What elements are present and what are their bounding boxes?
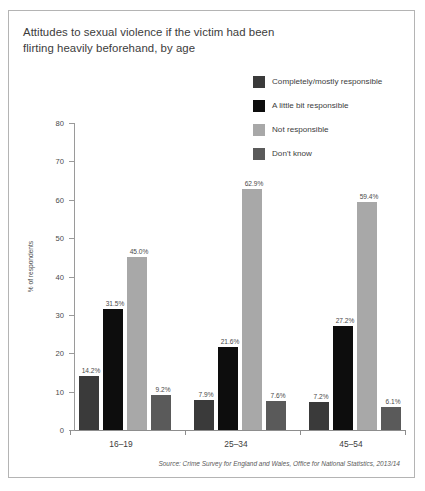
bar-value-label: 62.9%	[239, 180, 269, 187]
bar[interactable]	[309, 402, 329, 430]
x-axis-tick	[70, 430, 71, 435]
bar-column[interactable]: 45.0%	[127, 123, 147, 430]
bar-column[interactable]: 27.2%	[333, 123, 353, 430]
y-axis-tick	[69, 238, 75, 239]
bar[interactable]	[103, 309, 123, 430]
bar[interactable]	[381, 407, 401, 430]
bar-value-label: 7.9%	[191, 391, 221, 398]
bar-value-label: 9.2%	[148, 386, 178, 393]
chart-figure-frame: Attitudes to sexual violence if the vict…	[8, 10, 415, 478]
plot-area: % of respondents 01020304050607080 14.2%…	[9, 11, 416, 479]
y-axis-tick	[69, 161, 75, 162]
y-axis-tick-label: 40	[24, 273, 64, 282]
y-axis-tick	[69, 200, 75, 201]
bar[interactable]	[79, 376, 99, 430]
source-note: Source: Crime Survey for England and Wal…	[158, 460, 400, 467]
y-axis-tick-label: 70	[24, 157, 64, 166]
y-axis-tick	[69, 392, 75, 393]
bar[interactable]	[194, 400, 214, 430]
y-axis-tick	[69, 315, 75, 316]
bar-value-label: 27.2%	[330, 317, 360, 324]
bar-value-label: 45.0%	[124, 248, 154, 255]
bar-value-label: 7.6%	[263, 392, 293, 399]
y-axis-tick	[69, 353, 75, 354]
y-axis-tick-label: 60	[24, 196, 64, 205]
y-axis-tick-label: 20	[24, 349, 64, 358]
bar-column[interactable]: 9.2%	[151, 123, 171, 430]
bar[interactable]	[151, 395, 171, 430]
x-axis-tick	[300, 430, 301, 435]
bar-column[interactable]: 6.1%	[381, 123, 401, 430]
bar-value-label: 7.2%	[306, 393, 336, 400]
bar-group-bars: 7.2%27.2%59.4%6.1%	[309, 123, 405, 430]
bar-column[interactable]: 59.4%	[357, 123, 377, 430]
bar[interactable]	[266, 401, 286, 430]
y-axis-tick-label: 80	[24, 119, 64, 128]
bar-column[interactable]: 31.5%	[103, 123, 123, 430]
x-axis-tick	[185, 430, 186, 435]
x-axis-group-label: 16–19	[66, 439, 176, 449]
bar-value-label: 6.1%	[378, 398, 408, 405]
bar-column[interactable]: 7.9%	[194, 123, 214, 430]
x-axis-group-label: 45–54	[296, 439, 406, 449]
bar[interactable]	[218, 347, 238, 430]
bar-group-bars: 7.9%21.6%62.9%7.6%	[194, 123, 290, 430]
x-axis-group-label: 25–34	[181, 439, 291, 449]
bar-group-bars: 14.2%31.5%45.0%9.2%	[79, 123, 175, 430]
y-axis-tick-label: 30	[24, 311, 64, 320]
bar-value-label: 59.4%	[354, 193, 384, 200]
bar-column[interactable]: 14.2%	[79, 123, 99, 430]
bar[interactable]	[127, 257, 147, 430]
y-axis-tick-label: 0	[24, 426, 64, 435]
y-axis-tick-label: 50	[24, 234, 64, 243]
bar[interactable]	[357, 202, 377, 430]
bar[interactable]	[242, 189, 262, 430]
bar-column[interactable]: 62.9%	[242, 123, 262, 430]
x-axis-tick-end	[405, 430, 406, 435]
bar-column[interactable]: 7.6%	[266, 123, 286, 430]
y-axis-tick-label: 10	[24, 388, 64, 397]
bar-value-label: 21.6%	[215, 338, 245, 345]
bar-column[interactable]: 7.2%	[309, 123, 329, 430]
bar-value-label: 14.2%	[76, 367, 106, 374]
bar[interactable]	[333, 326, 353, 430]
x-axis-baseline	[74, 430, 406, 431]
bar-value-label: 31.5%	[100, 300, 130, 307]
y-axis-tick	[69, 277, 75, 278]
bar-column[interactable]: 21.6%	[218, 123, 238, 430]
y-axis-tick	[69, 123, 75, 124]
